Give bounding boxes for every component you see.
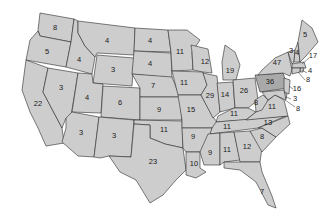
label-sc: 8	[260, 132, 264, 141]
label-in: 14	[221, 90, 229, 99]
label-ar: 9	[191, 132, 195, 141]
label-nm: 3	[112, 131, 116, 140]
leader-de	[286, 97, 291, 99]
leader-ct	[298, 72, 305, 80]
label-ut: 4	[85, 93, 89, 102]
label-wa: 8	[53, 23, 57, 32]
label-al: 11	[223, 145, 231, 154]
label-ny: 47	[273, 58, 281, 67]
label-mt: 4	[105, 36, 109, 45]
label-ne: 7	[151, 81, 155, 90]
label-ks: 9	[157, 105, 161, 114]
state-nd[interactable]	[134, 28, 171, 52]
label-wi: 12	[201, 57, 209, 66]
label-ga: 12	[243, 142, 251, 151]
label-va: 11	[268, 102, 276, 111]
label-mn: 11	[176, 47, 184, 56]
label-ma: 17	[309, 51, 317, 60]
label-ct: 8	[306, 75, 310, 84]
us-electoral-map: 8 5 22 4 3 4 3 4 6 3 3 4 4 7 9 11 23 11 …	[0, 0, 334, 219]
label-az: 3	[79, 128, 83, 137]
label-ia: 11	[180, 78, 188, 87]
label-me: 5	[303, 30, 307, 39]
label-la: 10	[190, 159, 198, 168]
label-tx: 23	[149, 157, 157, 166]
state-ia[interactable]	[172, 71, 207, 95]
label-ms: 9	[208, 148, 212, 157]
label-ky: 11	[230, 109, 238, 118]
label-or: 5	[45, 47, 49, 56]
label-vt: 3	[289, 46, 293, 55]
label-nv: 3	[59, 83, 63, 92]
label-co: 6	[118, 98, 122, 107]
label-nj: 16	[293, 84, 301, 93]
label-mi: 19	[226, 66, 234, 75]
label-nd: 4	[148, 36, 152, 45]
label-il: 29	[206, 91, 214, 100]
state-fl[interactable]	[224, 162, 276, 208]
label-pa: 36	[266, 77, 274, 86]
label-sd: 4	[148, 59, 152, 68]
label-wy: 3	[111, 65, 115, 74]
label-tn: 11	[223, 122, 231, 131]
state-ma[interactable]	[292, 62, 306, 68]
label-oh: 26	[240, 86, 248, 95]
label-wv: 8	[254, 98, 258, 107]
label-mo: 15	[187, 105, 195, 114]
label-fl: 7	[260, 187, 264, 196]
label-ok: 11	[160, 125, 168, 134]
label-de: 3	[293, 94, 297, 103]
label-id: 4	[77, 55, 81, 64]
label-nh: 4	[295, 48, 299, 57]
label-ca: 22	[34, 99, 42, 108]
label-ri: 4	[308, 66, 312, 75]
label-nc: 13	[264, 118, 272, 127]
label-md: 8	[296, 104, 300, 113]
